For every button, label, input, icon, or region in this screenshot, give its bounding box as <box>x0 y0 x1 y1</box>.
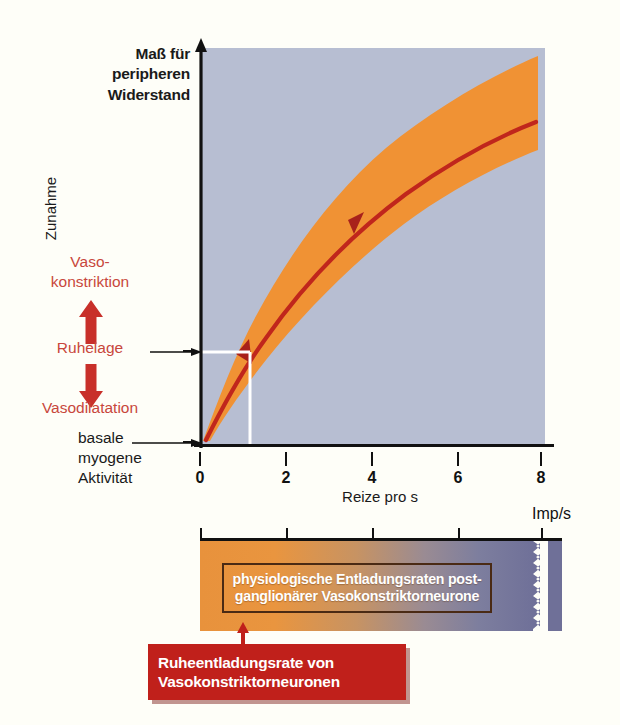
x-tick-2 <box>285 452 287 466</box>
y-axis-title: Maß für peripheren Widerstand <box>72 44 190 105</box>
y-axis-title-line2: peripheren <box>72 64 190 84</box>
x-tick-0 <box>199 452 201 466</box>
x-tick-4 <box>371 452 373 466</box>
bar-tick-0 <box>200 528 202 539</box>
x-tick-label-2: 2 <box>273 469 299 487</box>
x-tick-6 <box>457 452 459 466</box>
annotation-vasoconstriction-line2: konstriktion <box>10 272 170 292</box>
y-axis-title-line1: Maß für <box>72 44 190 64</box>
discharge-rate-bar: physiologische Entladungsraten post- gan… <box>200 541 562 631</box>
annotation-vasodilation: Vasodilatation <box>4 398 176 418</box>
chart-svg <box>200 48 545 444</box>
y-tick-basal <box>183 441 195 443</box>
bar-inner-label: physiologische Entladungsraten post- gan… <box>233 571 482 606</box>
x-tick-label-8: 8 <box>528 469 554 487</box>
bar-tick-3 <box>458 528 460 539</box>
y-axis-secondary-label: Zunahme <box>42 149 59 269</box>
callout-box: Ruheentladungsrate von Vasokonstriktorne… <box>148 644 406 700</box>
x-axis-line <box>194 444 554 447</box>
y-tick-rest-state <box>183 350 195 352</box>
y-axis-title-line3: Widerstand <box>72 85 190 105</box>
bar-inner-label-line2: ganglionärer Vasokonstriktorneurone <box>235 588 479 604</box>
bar-tick-1 <box>286 528 288 539</box>
x-tick-label-4: 4 <box>359 469 385 487</box>
zigzag-axis-break-icon <box>530 541 552 631</box>
chart-plot-area <box>200 48 545 444</box>
y-axis-line <box>194 38 208 454</box>
x-axis-label: Reize pro s <box>300 488 460 505</box>
callout-line2: Vasokonstriktorneuronen <box>158 673 340 690</box>
bar-inner-label-line1: physiologische Entladungsraten post- <box>233 571 482 587</box>
annotation-basal-line3: Aktivität <box>78 468 162 488</box>
response-band <box>203 56 538 441</box>
bar-unit-label: Imp/s <box>532 505 571 523</box>
callout-line1: Ruheentladungsrate von <box>158 654 334 671</box>
x-tick-label-6: 6 <box>445 469 471 487</box>
annotation-rest-state: Ruhelage <box>10 338 170 358</box>
bar-tick-4 <box>541 528 543 539</box>
annotation-vasoconstriction-line1: Vaso- <box>10 252 170 272</box>
bar-tick-2 <box>372 528 374 539</box>
bar-inner-label-box: physiologische Entladungsraten post- gan… <box>222 563 492 613</box>
x-tick-label-0: 0 <box>187 469 213 487</box>
x-tick-8 <box>540 452 542 466</box>
annotation-vasoconstriction: Vaso- konstriktion <box>10 252 170 292</box>
annotation-basal-line2: myogene <box>78 448 162 468</box>
callout-text: Ruheentladungsrate von Vasokonstriktorne… <box>158 653 340 692</box>
